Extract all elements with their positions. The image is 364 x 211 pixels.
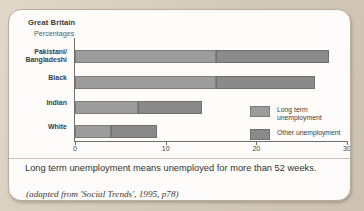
y-axis-label-text: Black (17, 74, 67, 82)
legend-item-other: Other unemployment (250, 129, 340, 140)
x-axis-tick-label: 30 (343, 145, 351, 152)
bar-segment-long-term (75, 125, 111, 138)
legend-label: Long term unemployment (277, 106, 322, 122)
legend-item-long-term: Long term unemployment (250, 106, 322, 122)
y-axis-label-indian: Indian (17, 99, 67, 107)
y-axis-label-text: Pakistani/ Bangladeshi (17, 48, 67, 64)
chart-card: Great Britain Percentages Pakistani/ Ban… (8, 9, 351, 201)
chart-caption: Long term unemployment means unemployed … (25, 162, 337, 175)
y-axis-label-text: White (17, 123, 67, 131)
bar-segment-long-term (75, 76, 216, 89)
bar-segment-long-term (75, 50, 216, 63)
bar-segment-other (216, 50, 329, 63)
y-axis-label-pakistani-bangladeshi: Pakistani/ Bangladeshi (17, 48, 67, 64)
bar-segment-other (216, 76, 316, 89)
x-axis-tick-label: 10 (162, 145, 170, 152)
legend-swatch-other (250, 129, 270, 140)
legend-swatch-long-term (250, 106, 270, 117)
chart-subtitle: Percentages (34, 29, 74, 38)
chart-title: Great Britain (28, 18, 75, 27)
y-axis-label-black: Black (17, 74, 67, 82)
y-axis-label-text: Indian (17, 99, 67, 107)
chart-source: (adapted from 'Social Trends', 1995, p78… (26, 189, 179, 199)
x-axis-tick-label: 0 (73, 145, 77, 152)
bar-segment-long-term (75, 101, 138, 114)
chart-legend: Long term unemployment Other unemploymen… (250, 106, 346, 146)
x-axis-tick-label: 20 (252, 145, 260, 152)
legend-label: Other unemployment (277, 129, 340, 137)
bar-segment-other (111, 125, 156, 138)
divider (9, 158, 350, 159)
bar-segment-other (138, 101, 201, 114)
y-axis-label-white: White (17, 123, 67, 131)
chart-figure: Great Britain Percentages Pakistani/ Ban… (9, 10, 350, 154)
